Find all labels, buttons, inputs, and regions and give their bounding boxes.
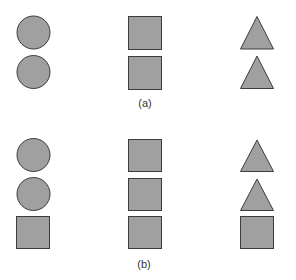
panel-b-column-3 [241,140,274,249]
panel-a-column-1 [17,16,50,89]
circle-shape [17,56,50,89]
square-shape [129,140,162,172]
circle-shape [17,139,50,172]
square-shape [129,57,162,90]
panel-b [17,139,274,249]
panel-b-column-2 [129,140,162,249]
triangle-shape [241,179,274,211]
triangle-shape [241,56,274,89]
triangle-shape [241,140,274,172]
square-shape [129,179,162,211]
square-shape [17,217,50,249]
diagram-canvas [0,0,296,280]
square-shape [241,217,274,249]
circle-shape [17,16,50,49]
panel-a-label: (a) [125,97,165,109]
panel-a-column-2 [129,17,162,90]
circle-shape [17,178,50,211]
panel-b-label: (b) [124,258,164,270]
panel-a [17,16,274,90]
square-shape [129,217,162,249]
panel-a-column-3 [241,17,274,89]
panel-b-column-1 [17,139,51,249]
square-shape [129,17,162,50]
triangle-shape [241,17,274,50]
